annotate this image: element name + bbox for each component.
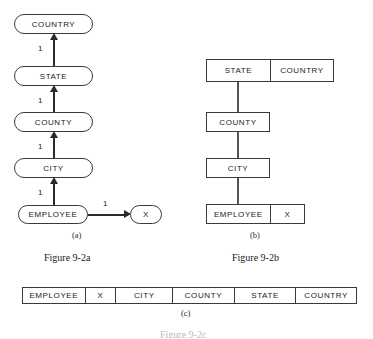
caption-figure-9-2a: Figure 9-2a	[44, 252, 90, 263]
edge-label-city-county: 1	[38, 142, 42, 151]
record-cell: X	[270, 205, 304, 223]
caption-figure-9-2c: Figure 9-2c	[160, 329, 220, 338]
node-x-a: X	[130, 205, 162, 224]
record-cell: EMPLOYEE	[207, 205, 270, 223]
record-cell: COUNTY	[172, 288, 234, 303]
record-cell: COUNTY	[207, 113, 269, 131]
node-county-a: COUNTY	[14, 112, 93, 132]
edge-county-state-arrowhead	[50, 85, 58, 92]
record-city-b: CITY	[206, 158, 270, 178]
node-label: CITY	[43, 164, 64, 173]
record-cell: STATE	[234, 288, 296, 303]
edge-label-county-state: 1	[38, 96, 42, 105]
edge-city-county-arrowhead	[50, 131, 58, 138]
link-state-county-b	[237, 82, 239, 112]
record-state-country-b: STATE COUNTRY	[206, 59, 334, 82]
record-cell: STATE	[207, 60, 270, 81]
node-label: EMPLOYEE	[29, 210, 78, 219]
record-cell: EMPLOYEE	[23, 288, 85, 303]
edge-label-state-country: 1	[38, 44, 42, 53]
node-country-a: COUNTRY	[14, 14, 93, 34]
node-label: COUNTRY	[32, 20, 76, 29]
link-county-city-b	[237, 132, 239, 158]
panel-a-sublabel: (a)	[72, 230, 81, 240]
edge-employee-x-line	[88, 214, 128, 216]
record-county-b: COUNTY	[206, 112, 270, 132]
record-cell: CITY	[207, 159, 269, 177]
record-employee-x-b: EMPLOYEE X	[206, 204, 305, 224]
record-cell: COUNTRY	[270, 60, 333, 81]
record-cell: X	[85, 288, 116, 303]
edge-state-country-line	[53, 38, 55, 66]
node-city-a: CITY	[14, 158, 93, 178]
record-cell: CITY	[115, 288, 172, 303]
edge-state-country-arrowhead	[50, 33, 58, 40]
edge-label-employee-x: 1	[103, 199, 107, 208]
record-cell: COUNTRY	[295, 288, 356, 303]
figure-canvas: COUNTRY 1 STATE 1 COUNTY 1 CITY 1 EMPLOY…	[0, 0, 373, 339]
node-label: COUNTY	[35, 118, 72, 127]
node-label: STATE	[40, 72, 68, 81]
node-label: X	[143, 210, 149, 219]
node-state-a: STATE	[14, 66, 93, 86]
record-flat-c: EMPLOYEE X CITY COUNTY STATE COUNTRY	[22, 287, 357, 304]
panel-c-sublabel: (c)	[181, 308, 190, 318]
link-city-employee-b	[237, 178, 239, 204]
node-employee-a: EMPLOYEE	[18, 205, 88, 224]
panel-b-sublabel: (b)	[250, 230, 260, 240]
caption-figure-9-2b: Figure 9-2b	[232, 252, 279, 263]
edge-employee-city-arrowhead	[50, 177, 58, 184]
edge-employee-city-line	[53, 182, 55, 205]
edge-label-employee-city: 1	[38, 188, 42, 197]
